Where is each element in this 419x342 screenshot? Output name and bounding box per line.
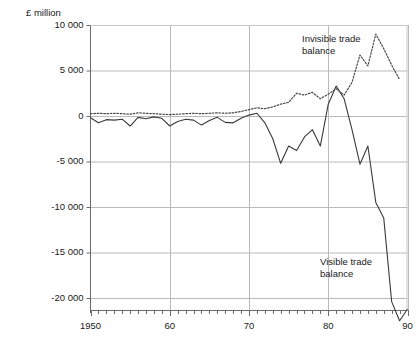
annotation-line: Invisible trade — [302, 33, 361, 45]
y-axis-tick-label: -15 000 — [51, 246, 83, 257]
annotation-line: Visible trade — [320, 256, 372, 268]
invisible-trade-balance-label: Invisible tradebalance — [302, 33, 361, 56]
y-axis-tick-label: 10 000 — [54, 19, 83, 30]
x-axis-tick-label: 60 — [164, 320, 175, 331]
x-axis-tick-label: 1950 — [80, 320, 101, 331]
visible-trade-balance-label: Visible tradebalance — [320, 256, 372, 279]
y-axis-tick-label: -20 000 — [51, 292, 83, 303]
annotation-line: balance — [320, 268, 372, 280]
x-axis-tick-label: 90 — [402, 320, 413, 331]
annotation-line: balance — [302, 45, 361, 57]
series-line — [91, 86, 400, 321]
x-axis-tick-label: 80 — [323, 320, 334, 331]
y-axis-tick-label: 0 — [78, 110, 83, 121]
chart-canvas: £ million 10 0005 0000-5 000-10 000-15 0… — [0, 0, 419, 342]
y-axis-tick-label: 5 000 — [60, 64, 84, 75]
y-axis-tick-label: -10 000 — [51, 201, 83, 212]
x-axis-tick-label: 70 — [244, 320, 255, 331]
y-axis-tick-label: -5 000 — [57, 155, 84, 166]
